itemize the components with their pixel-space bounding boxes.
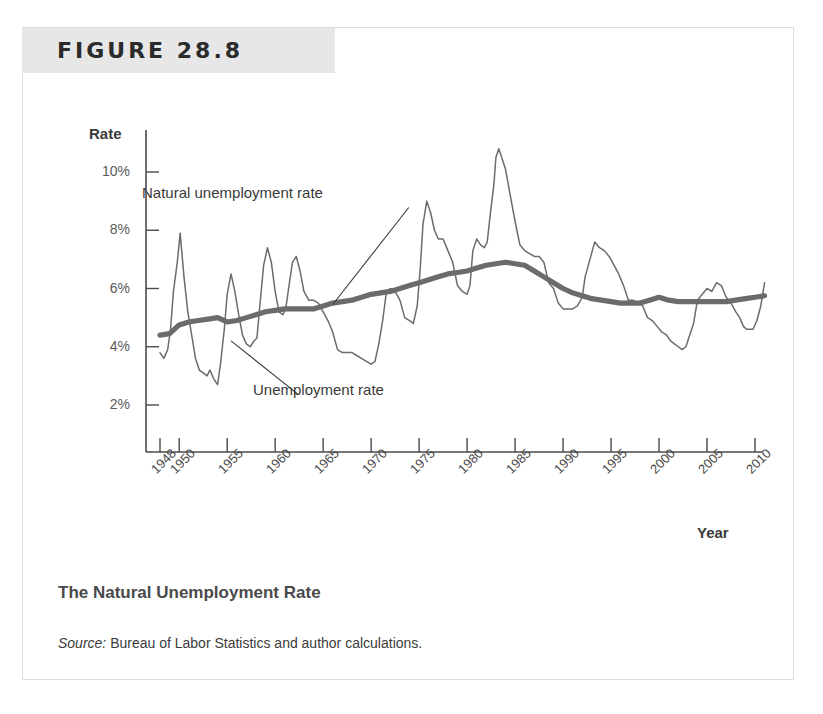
- annotation-unemployment-rate: Unemployment rate: [253, 381, 384, 398]
- y-tick-label: 10%: [88, 163, 130, 179]
- x-axis-title: Year: [697, 524, 729, 541]
- y-tick-label: 8%: [88, 221, 130, 237]
- figure-label: FIGURE 28.8: [57, 38, 243, 63]
- y-tick-label: 2%: [88, 396, 130, 412]
- figure-source-note: Source: Bureau of Labor Statistics and a…: [58, 635, 422, 651]
- y-tick-label: 6%: [88, 280, 130, 296]
- y-axis-title: Rate: [89, 125, 122, 142]
- source-text: Bureau of Labor Statistics and author ca…: [106, 635, 422, 651]
- figure-caption-title: The Natural Unemployment Rate: [58, 583, 321, 603]
- y-tick-label: 4%: [88, 338, 130, 354]
- figure-page: FIGURE 28.8 Rate Year 2%4%6%8%10% 194819…: [0, 0, 823, 714]
- source-prefix: Source:: [58, 635, 106, 651]
- annotation-natural-rate: Natural unemployment rate: [142, 184, 323, 201]
